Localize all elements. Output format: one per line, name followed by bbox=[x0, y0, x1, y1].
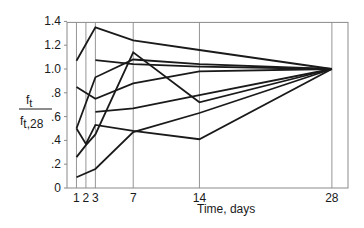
x-tick-label: 3 bbox=[92, 191, 99, 205]
y-tick-label: 0 bbox=[54, 181, 61, 195]
y-tick-label: 1.2 bbox=[44, 38, 61, 52]
y-axis-label: ft ft,28 bbox=[19, 93, 52, 131]
x-tick-label: 7 bbox=[130, 191, 137, 205]
y-tick-label: .2 bbox=[51, 157, 61, 171]
data-line-series-5 bbox=[95, 69, 332, 112]
x-tick-label: 28 bbox=[325, 191, 339, 205]
line-chart: 0.2.4.6.81.01.21.4 12371428 ft ft,28 Tim… bbox=[0, 0, 364, 228]
vertical-gridlines bbox=[76, 22, 331, 188]
data-line-series-8 bbox=[77, 69, 332, 177]
svg-text:ft,28: ft,28 bbox=[20, 114, 44, 131]
y-tick-label: .4 bbox=[51, 133, 61, 147]
data-line-series-6 bbox=[77, 69, 332, 144]
y-tick-label: 1.4 bbox=[44, 14, 61, 28]
data-series bbox=[77, 27, 332, 177]
y-label-denominator-sub: t,28 bbox=[23, 117, 43, 131]
y-axis-ticks: 0.2.4.6.81.01.21.4 bbox=[44, 14, 67, 195]
x-tick-label: 1 bbox=[73, 191, 80, 205]
x-tick-label: 2 bbox=[83, 191, 90, 205]
x-axis-label: Time, days bbox=[197, 202, 255, 216]
y-tick-label: .8 bbox=[51, 86, 61, 100]
y-tick-label: 1.0 bbox=[44, 62, 61, 76]
svg-text:ft: ft bbox=[26, 93, 32, 109]
y-tick-label: .6 bbox=[51, 110, 61, 124]
y-label-numerator-sub: t bbox=[29, 97, 32, 109]
